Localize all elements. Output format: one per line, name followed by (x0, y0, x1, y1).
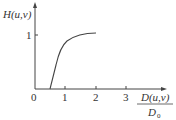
x-axis-label-denominator-sub: 0 (157, 112, 161, 120)
x-tick-label-2: 2 (93, 91, 99, 103)
x-axis-label-numerator: D(u,v) (140, 91, 170, 104)
y-axis-label: H(u,v) (2, 8, 32, 21)
x-axis-label-denominator: D (147, 106, 156, 118)
y-axis-arrow-icon (33, 2, 37, 8)
x-tick-label-1: 1 (62, 91, 68, 103)
curve-h (50, 33, 96, 89)
origin-label: 0 (31, 91, 37, 103)
y-tick-label-1: 1 (26, 29, 32, 41)
x-tick-label-3: 3 (123, 91, 129, 103)
chart: H(u,v) 1 0 1 2 3 D(u,v) D 0 (0, 0, 176, 120)
